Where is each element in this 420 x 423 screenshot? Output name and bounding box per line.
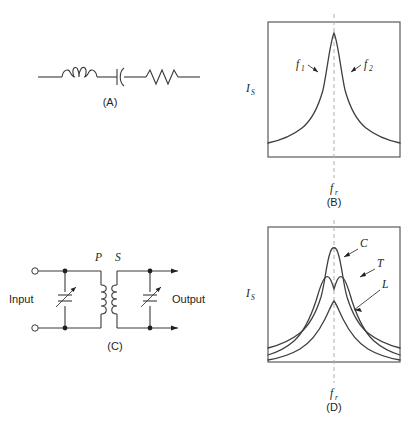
input-label: Input <box>9 293 33 305</box>
secondary-coil <box>112 285 117 314</box>
output-arrow-bottom <box>171 326 178 331</box>
l-leader <box>354 290 380 310</box>
output-label: Output <box>172 293 205 305</box>
primary-label: P <box>94 251 102 263</box>
caption-c: (C) <box>85 340 145 352</box>
junction-input-bottom <box>63 326 68 331</box>
junction-input-top <box>63 269 68 274</box>
caption-d: (D) <box>304 401 364 413</box>
input-terminal-top <box>32 268 38 274</box>
f2-sublabel: 2 <box>369 64 373 73</box>
secondary-label: S <box>115 251 121 263</box>
junction-output-bottom <box>148 326 153 331</box>
resistor-symbol <box>146 70 178 84</box>
label-critical-coupling: C <box>360 237 368 249</box>
f1-arrowhead <box>313 67 318 73</box>
label-transitional-coupling: T <box>377 257 385 269</box>
c-arrowhead <box>344 252 350 257</box>
primary-coil <box>101 285 106 314</box>
curve-transitional-coupling <box>268 277 400 355</box>
f1-sublabel: 1 <box>301 64 305 73</box>
chart-d-svg: C T L I S f r <box>230 215 420 423</box>
f2-arrowhead <box>351 67 356 73</box>
t-arrowhead <box>360 272 366 277</box>
junction-output-top <box>148 269 153 274</box>
chart-b-svg: f 1 f 2 I S f r <box>230 0 420 215</box>
input-terminal-bottom <box>32 325 38 331</box>
inductor-symbol <box>62 67 97 77</box>
caption-b: (B) <box>304 196 364 208</box>
caption-a: (A) <box>80 96 140 108</box>
ylabel-sub-b: S <box>251 88 255 97</box>
output-arrow-top <box>171 269 178 274</box>
panel-a: (A) <box>0 0 215 125</box>
panel-c: P S Input Output (C) <box>0 228 228 368</box>
curve-loose-coupling <box>268 301 400 360</box>
capacitor-plate-curved <box>120 68 124 86</box>
panel-d: C T L I S f r (D) <box>230 215 420 423</box>
ylabel-sub-d: S <box>251 293 255 302</box>
label-loose-coupling: L <box>381 278 388 290</box>
panel-b: f 1 f 2 I S f r (B) <box>230 0 420 215</box>
